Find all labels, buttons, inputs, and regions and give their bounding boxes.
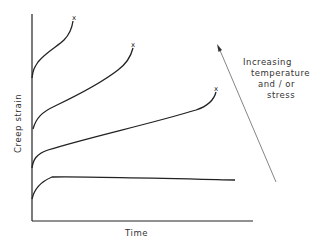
creep-diagram: x x x	[0, 0, 320, 245]
annotation-text: Increasing temperature and / or stress	[243, 57, 310, 101]
creep-curve-lowest	[32, 177, 235, 199]
annotation-line-1: Increasing	[243, 57, 310, 68]
fracture-marker-1: x	[72, 14, 76, 22]
creep-curve-highest	[32, 21, 73, 78]
annotation-line-4: stress	[243, 90, 310, 101]
annotation-line-3: and / or	[243, 79, 310, 90]
fracture-marker-2: x	[131, 41, 135, 49]
y-axis-label: Creep strain	[13, 113, 23, 153]
x-axis-label: Time	[125, 228, 148, 238]
fracture-marker-3: x	[214, 85, 218, 93]
annotation-line-2: temperature	[243, 68, 310, 79]
creep-curve-high	[33, 48, 133, 129]
arrowhead-icon	[217, 44, 222, 52]
